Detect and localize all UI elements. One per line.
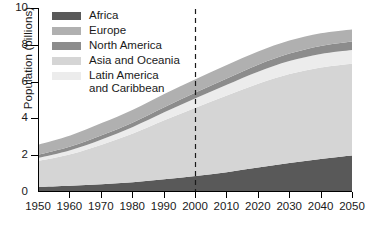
chart-legend: AfricaEuropeNorth AmericaAsia and Oceani…: [52, 9, 202, 97]
y-tick-8: [31, 45, 38, 46]
legend-swatch-asia-and-oceania: [52, 57, 81, 65]
y-tick-6: [31, 82, 38, 83]
legend-item-africa: Africa: [52, 9, 202, 23]
legend-item-europe: Europe: [52, 24, 202, 38]
legend-label-north-america: North America: [89, 39, 162, 52]
legend-swatch-north-america: [52, 42, 81, 50]
population-stacked-area-chart: Population (billions) 0246810 1950196019…: [0, 0, 366, 231]
legend-item-north-america: North America: [52, 39, 202, 53]
legend-swatch-latin-america: [52, 72, 81, 80]
y-tick-label-10: 10: [0, 1, 28, 13]
x-tick-1960: [69, 192, 70, 198]
legend-label-europe: Europe: [89, 24, 126, 37]
y-tick-label-0: 0: [0, 185, 28, 197]
x-tick-2010: [226, 192, 227, 198]
y-tick-label-8: 8: [0, 38, 28, 50]
x-tick-1990: [164, 192, 165, 198]
legend-item-asia-and-oceania: Asia and Oceania: [52, 54, 202, 68]
legend-label-latin-america: Latin America and Caribbean: [89, 69, 164, 95]
legend-item-latin-america: Latin America and Caribbean: [52, 69, 202, 96]
x-tick-1970: [101, 192, 102, 198]
x-tick-2050: [352, 192, 353, 198]
x-tick-2030: [289, 192, 290, 198]
x-tick-2020: [258, 192, 259, 198]
y-tick-label-4: 4: [0, 111, 28, 123]
legend-swatch-africa: [52, 12, 81, 20]
y-tick-4: [31, 118, 38, 119]
x-tick-label-2050: 2050: [332, 200, 366, 212]
y-tick-label-2: 2: [0, 148, 28, 160]
y-tick-2: [31, 155, 38, 156]
x-tick-2040: [321, 192, 322, 198]
legend-label-africa: Africa: [89, 9, 118, 22]
y-tick-10: [31, 8, 38, 9]
x-tick-2000: [195, 192, 196, 198]
legend-swatch-europe: [52, 27, 81, 35]
y-tick-label-6: 6: [0, 75, 28, 87]
legend-label-asia-and-oceania: Asia and Oceania: [89, 54, 180, 67]
x-tick-1980: [132, 192, 133, 198]
